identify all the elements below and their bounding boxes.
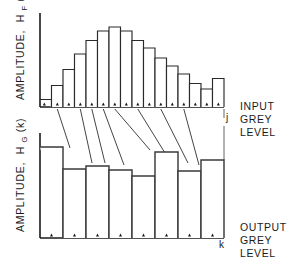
output-bar-7 <box>201 160 224 238</box>
input-bar-0 <box>40 100 52 108</box>
bottom-y-axis-label-subscript: G <box>20 136 29 143</box>
output-bar-5 <box>155 152 178 238</box>
top-y-axis-label: AMPLITUDE, H F (j) <box>14 0 29 100</box>
top-panel: AMPLITUDE, H F (j) j INPUT GREY LEVEL <box>14 0 276 138</box>
output-bar-6 <box>178 171 201 238</box>
bottom-x-axis-variable: k <box>219 239 225 250</box>
output-histogram-bars <box>40 147 224 238</box>
input-label-line3: LEVEL <box>240 126 276 138</box>
input-bar-3 <box>75 54 87 107</box>
svg-text:AMPLITUDE, H: AMPLITUDE, H G (k) <box>14 118 29 232</box>
input-bar-5 <box>98 31 110 107</box>
output-bar-3 <box>109 170 132 238</box>
svg-text:AMPLITUDE, H: AMPLITUDE, H F (j) <box>14 0 29 100</box>
bottom-y-axis-label-arg: (k) <box>14 118 26 132</box>
output-bar-0 <box>40 147 63 238</box>
bottom-y-axis-label: AMPLITUDE, H G (k) <box>14 118 29 232</box>
input-histogram-bars <box>40 27 224 107</box>
input-bar-2 <box>63 70 75 108</box>
output-label-line2: GREY <box>240 234 272 246</box>
output-bar-2 <box>86 166 109 238</box>
histogram-equalization-figure: AMPLITUDE, H F (j) j INPUT GREY LEVEL <box>0 0 303 270</box>
input-bar-9 <box>144 48 156 107</box>
output-grey-level-label: OUTPUT GREY LEVEL <box>240 221 287 259</box>
bottom-panel: AMPLITUDE, H G (k) k OUTPUT GREY LEVEL <box>14 118 287 259</box>
output-label-line3: LEVEL <box>240 247 276 259</box>
input-bar-4 <box>86 41 98 108</box>
top-y-axis-label-main: AMPLITUDE, <box>14 30 26 100</box>
input-grey-level-label: INPUT GREY LEVEL <box>240 100 276 138</box>
top-x-axis-variable: j <box>225 112 228 123</box>
input-bar-12 <box>178 74 190 107</box>
input-bar-7 <box>121 31 133 107</box>
figure-svg: AMPLITUDE, H F (j) j INPUT GREY LEVEL <box>0 0 303 270</box>
top-y-axis-label-subscript: F <box>20 5 29 10</box>
input-label-line2: GREY <box>240 113 272 125</box>
input-label-line1: INPUT <box>240 100 275 112</box>
top-y-axis-label-arg: (j) <box>14 0 26 2</box>
bottom-y-axis-label-symbol: H <box>14 146 26 154</box>
top-y-axis-label-symbol: H <box>14 14 26 22</box>
output-label-line1: OUTPUT <box>240 221 287 233</box>
input-bar-6 <box>109 27 121 107</box>
input-bar-8 <box>132 41 144 108</box>
input-bar-11 <box>167 66 179 107</box>
bottom-y-axis-label-main: AMPLITUDE, <box>14 162 26 232</box>
output-bar-4 <box>132 176 155 238</box>
input-bar-10 <box>155 58 167 107</box>
output-bar-1 <box>63 169 86 238</box>
